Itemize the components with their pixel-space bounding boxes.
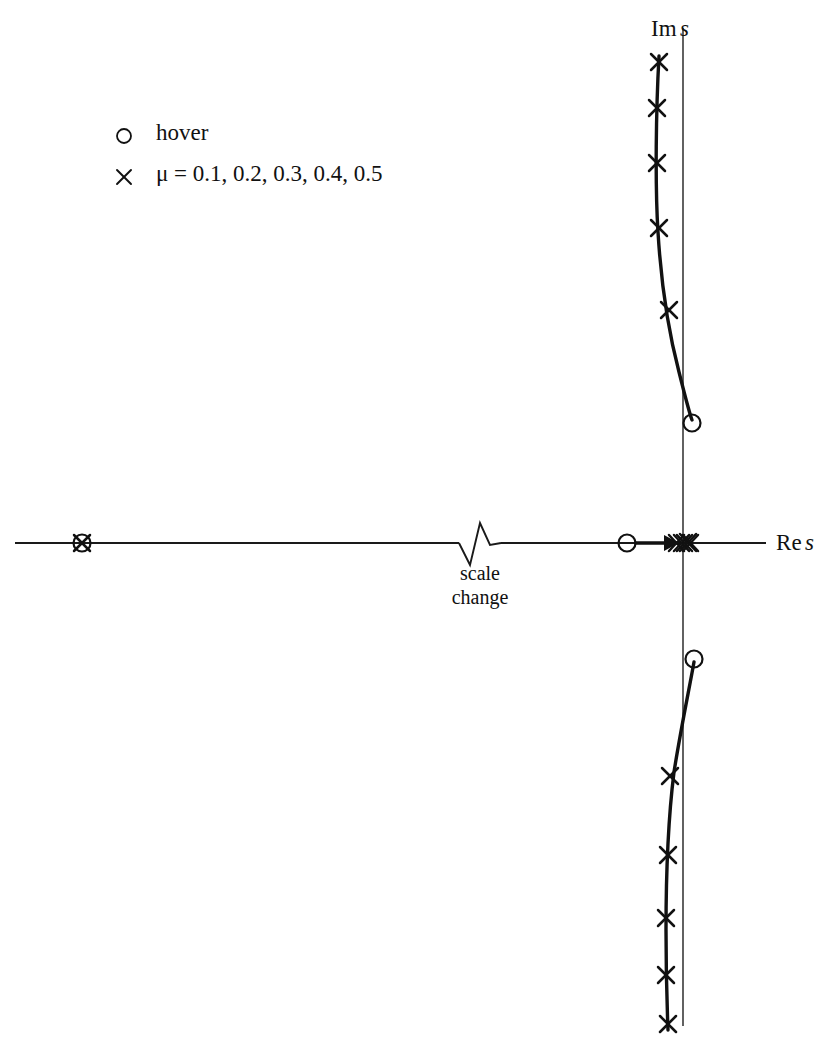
hover-circle-icon	[110, 122, 138, 150]
hover-circle-markers	[74, 415, 703, 668]
scale-change-label: scale change	[400, 561, 560, 610]
legend-label-mu: μ = 0.1, 0.2, 0.3, 0.4, 0.5	[156, 161, 383, 187]
real-axis-label-variable: s	[802, 530, 814, 555]
mu-cross-icon	[110, 163, 138, 191]
legend-item-mu: μ = 0.1, 0.2, 0.3, 0.4, 0.5	[110, 163, 530, 204]
lower-locus-path	[666, 662, 694, 1030]
legend-label-hover: hover	[156, 120, 208, 146]
imaginary-axis-label-prefix: Im	[651, 16, 677, 41]
cross-marker	[662, 768, 678, 784]
legend-item-hover: hover	[110, 122, 530, 163]
real-axis-label: Res	[776, 530, 814, 556]
scale-change-label-line2: change	[400, 585, 560, 609]
scale-change-label-line1: scale	[400, 561, 560, 585]
scale-change-break-icon	[459, 523, 501, 565]
upper-locus-path	[656, 56, 692, 420]
imaginary-axis-label: Ims	[651, 16, 689, 42]
cross-marker	[661, 302, 677, 318]
real-axis-label-prefix: Re	[776, 530, 802, 555]
imaginary-axis-label-variable: s	[677, 16, 689, 41]
legend: hover μ = 0.1, 0.2, 0.3, 0.4, 0.5	[110, 122, 530, 204]
